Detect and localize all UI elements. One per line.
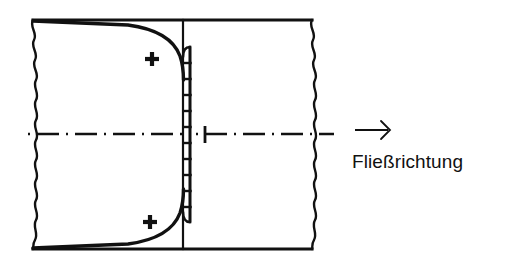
plus-marker-upper: [145, 52, 159, 66]
flow-direction-arrow-icon: [355, 121, 390, 139]
velocity-profile-lower-curve: [33, 189, 184, 248]
centerline: [28, 126, 334, 143]
velocity-profile-diagram: [0, 0, 507, 269]
flow-direction-label: Fließrichtung: [352, 152, 463, 171]
plus-marker-lower: [143, 215, 157, 229]
plus-markers: [143, 52, 159, 229]
velocity-profile-upper-curve: [33, 21, 184, 80]
left-break-line: [32, 20, 37, 249]
figure-canvas: Fließrichtung: [0, 0, 507, 269]
